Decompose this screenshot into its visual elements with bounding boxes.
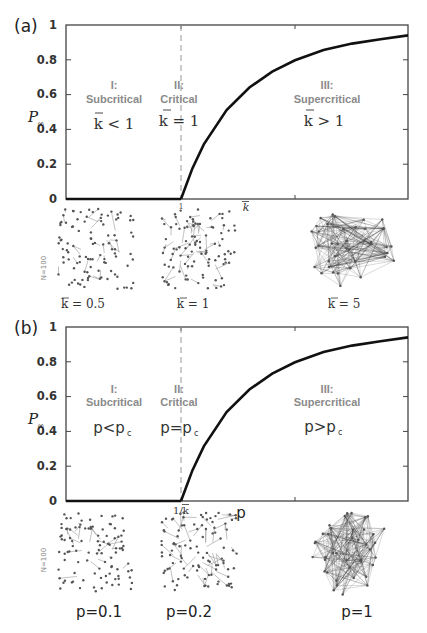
svg-text:0.6: 0.6	[37, 389, 57, 403]
svg-text:Supercritical: Supercritical	[294, 93, 361, 105]
y-tick-1: 1	[49, 18, 57, 32]
figure-canvas: (a) 0 0.2 0.4 0.6 0.8 1 P ∞	[0, 0, 427, 633]
svg-text:c: c	[338, 428, 342, 437]
svg-text:Supercritical: Supercritical	[294, 396, 361, 408]
panel-a-x-axis-label: k	[242, 201, 250, 214]
panel-b-curve	[181, 337, 408, 501]
panel-a-curve	[181, 35, 408, 199]
y-tick-0.2: 0.2	[37, 157, 57, 171]
svg-text:I:: I:	[111, 79, 118, 91]
svg-text:I:: I:	[111, 383, 118, 395]
svg-text:k > 1: k > 1	[304, 112, 345, 130]
svg-text:p>p: p>p	[304, 418, 336, 436]
panel-a-network-label-sparse: k = 0.5	[61, 297, 105, 311]
panel-a-region-critical: II: Critical k = 1	[159, 79, 200, 130]
panel-a-network-label-dense: k = 5	[328, 297, 361, 311]
svg-text:III:: III:	[321, 383, 334, 395]
panel-b-network-sparse	[57, 512, 133, 592]
panel-a: (a) 0 0.2 0.4 0.6 0.8 1 P ∞	[14, 16, 408, 311]
panel-a-label: (a)	[14, 16, 38, 36]
panel-b-network-dense	[311, 512, 385, 596]
panel-b-network-label-sparse: p=0.1	[76, 603, 122, 621]
svg-text:Subcritical: Subcritical	[86, 93, 142, 105]
svg-text:k < 1: k < 1	[94, 115, 135, 133]
panel-a-region-supercritical: III: Supercritical k > 1	[294, 79, 361, 130]
svg-text:p=p: p=p	[160, 419, 192, 437]
svg-text:0.8: 0.8	[37, 355, 57, 369]
panel-a-network-size-label: N=100	[40, 256, 48, 280]
panel-b-y-axis-label: P ∞	[27, 410, 45, 431]
panel-b-network-label-medium: p=0.2	[166, 603, 212, 621]
panel-b-network-medium	[160, 511, 237, 591]
svg-text:k = 0.5: k = 0.5	[61, 297, 105, 311]
panel-b-network-label-dense: p=1	[341, 603, 373, 621]
svg-text:II:: II:	[174, 79, 184, 91]
panel-b-region-subcritical: I: Subcritical p<p c	[86, 383, 142, 438]
panel-a-region-subcritical: I: Subcritical k < 1	[86, 79, 142, 133]
svg-text:c: c	[194, 429, 198, 438]
svg-text:1: 1	[49, 320, 57, 334]
panel-b-plot-frame	[66, 327, 408, 501]
panel-b-x-axis-label: p	[236, 504, 246, 522]
svg-text:p<p: p<p	[93, 419, 125, 437]
panel-b-ticks	[66, 327, 408, 501]
panel-b-region-supercritical: III: Supercritical p>p c	[294, 383, 361, 437]
panel-a-network-label-medium: k = 1	[177, 297, 210, 311]
svg-text:k = 1: k = 1	[177, 297, 210, 311]
svg-text:II:: II:	[174, 383, 184, 395]
svg-text:∞: ∞	[37, 421, 45, 431]
panel-a-plot-frame	[66, 25, 408, 199]
svg-text:k = 5: k = 5	[328, 297, 361, 311]
panel-a-y-tick-labels: 0 0.2 0.4 0.6 0.8 1	[37, 18, 57, 206]
panel-a-ticks	[66, 25, 408, 199]
panel-b-region-critical: II: Critical p=p c	[160, 383, 198, 438]
y-tick-0.6: 0.6	[37, 87, 57, 101]
svg-text:Critical: Critical	[160, 93, 197, 105]
panel-b: (b) 0 0.2 0.4 0.6 0.8 1 P ∞	[14, 318, 408, 621]
panel-a-network-dense	[310, 213, 395, 287]
svg-text:0: 0	[49, 494, 57, 508]
svg-text:0.2: 0.2	[37, 459, 57, 473]
svg-text:Subcritical: Subcritical	[86, 396, 142, 408]
panel-a-y-axis-label: P ∞	[27, 108, 45, 129]
panel-b-label: (b)	[14, 318, 38, 338]
svg-text:k = 1: k = 1	[159, 112, 200, 130]
y-tick-0: 0	[49, 192, 57, 206]
panel-b-y-tick-labels: 0 0.2 0.4 0.6 0.8 1	[37, 320, 57, 508]
svg-text:Critical: Critical	[160, 396, 197, 408]
panel-b-network-size-label: N=100	[40, 548, 48, 572]
panel-a-network-medium	[161, 208, 236, 289]
svg-text:III:: III:	[321, 79, 334, 91]
y-tick-0.8: 0.8	[37, 53, 57, 67]
svg-text:∞: ∞	[37, 119, 45, 129]
svg-text:c: c	[127, 429, 131, 438]
svg-text:k: k	[243, 201, 250, 214]
panel-a-network-sparse	[57, 208, 134, 290]
